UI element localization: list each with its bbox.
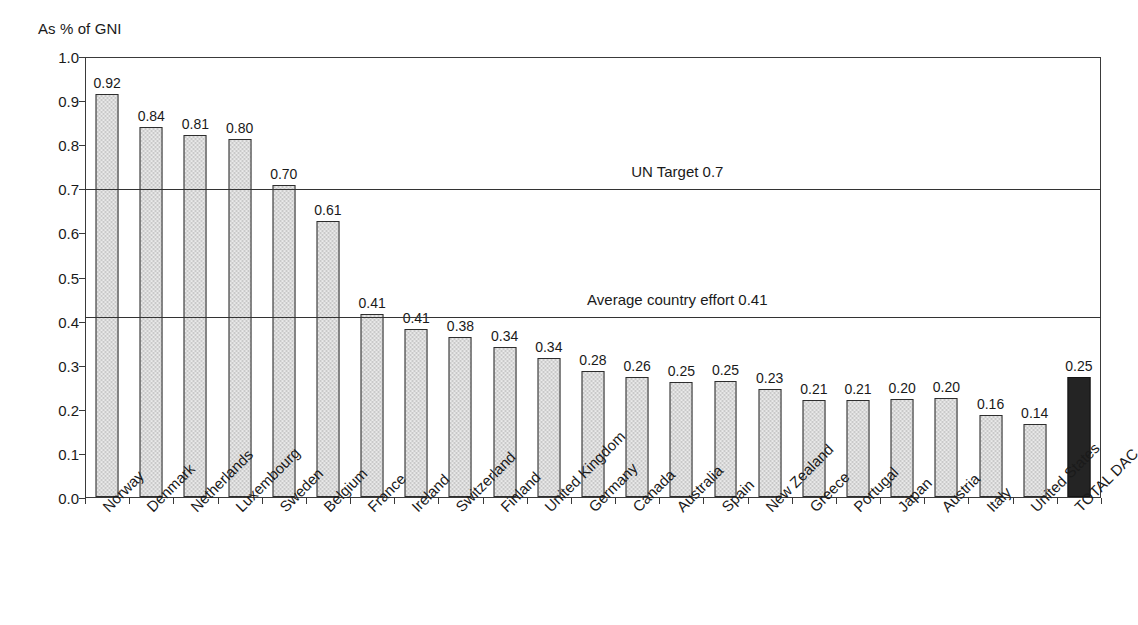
reference-line-label: Average country effort 0.41 <box>587 291 767 308</box>
bar-slot: 0.61 <box>306 57 350 497</box>
bar[interactable] <box>96 94 119 498</box>
bar-value-label: 0.21 <box>844 381 871 397</box>
oda-gni-bar-chart: As % of GNI 0.00.10.20.30.40.50.60.70.80… <box>0 0 1138 625</box>
bar-value-label: 0.92 <box>93 75 120 91</box>
bar-slot: 0.34 <box>483 57 527 497</box>
y-axis-tick-label: 0.1 <box>35 445 79 462</box>
bar-value-label: 0.25 <box>712 362 739 378</box>
bar[interactable] <box>758 389 781 497</box>
bar-value-label: 0.23 <box>756 370 783 386</box>
bar-value-label: 0.38 <box>447 318 474 334</box>
y-axis-tick <box>79 101 85 102</box>
y-axis-tick-label: 0.9 <box>35 93 79 110</box>
bar[interactable] <box>537 358 560 497</box>
bar-slot: 0.20 <box>880 57 924 497</box>
y-axis-tick-label: 0.0 <box>35 490 79 507</box>
y-axis-tick-label: 0.6 <box>35 225 79 242</box>
bar-slot: 0.41 <box>394 57 438 497</box>
bar-value-label: 0.25 <box>1065 358 1092 374</box>
y-axis-tick <box>79 57 85 58</box>
bar-value-label: 0.14 <box>1021 405 1048 421</box>
bar[interactable] <box>935 398 958 497</box>
bar-slot: 0.25 <box>1057 57 1101 497</box>
bar-slot: 0.70 <box>262 57 306 497</box>
bar[interactable] <box>449 337 472 497</box>
bar-value-label: 0.80 <box>226 120 253 136</box>
bar[interactable] <box>316 221 339 497</box>
bar-slot: 0.41 <box>350 57 394 497</box>
y-axis-tick <box>79 322 85 323</box>
reference-line <box>85 317 1101 318</box>
bar-value-label: 0.25 <box>668 363 695 379</box>
bar-slot: 0.16 <box>968 57 1012 497</box>
bar-slot: 0.84 <box>129 57 173 497</box>
y-axis-tick-label: 0.4 <box>35 313 79 330</box>
y-axis-tick-label: 0.7 <box>35 181 79 198</box>
bar-slot: 0.28 <box>571 57 615 497</box>
bar-value-label: 0.20 <box>933 379 960 395</box>
y-axis-tick-label: 0.5 <box>35 269 79 286</box>
bar-slot: 0.25 <box>659 57 703 497</box>
bar-slot: 0.14 <box>1013 57 1057 497</box>
plot-area: 0.920.840.810.800.700.610.410.410.380.34… <box>85 57 1101 498</box>
bar-slot: 0.20 <box>924 57 968 497</box>
y-axis-tick <box>79 366 85 367</box>
y-axis-tick-label: 1.0 <box>35 49 79 66</box>
bar-value-label: 0.34 <box>491 328 518 344</box>
bar-slot: 0.34 <box>527 57 571 497</box>
y-axis-tick <box>79 278 85 279</box>
y-axis-tick-label: 0.2 <box>35 401 79 418</box>
bar-value-label: 0.26 <box>624 358 651 374</box>
bar-value-label: 0.34 <box>535 339 562 355</box>
bar-slot: 0.21 <box>792 57 836 497</box>
x-axis-category-labels: NorwayDenmarkNetherlandsLuxembourgSweden… <box>85 499 1101 619</box>
y-axis-tick-label: 0.8 <box>35 137 79 154</box>
y-axis-tick <box>79 145 85 146</box>
bar[interactable] <box>405 329 428 497</box>
x-axis-tick <box>1101 498 1102 504</box>
bar-slot: 0.25 <box>703 57 747 497</box>
bar-value-label: 0.81 <box>182 116 209 132</box>
bar-value-label: 0.16 <box>977 396 1004 412</box>
y-axis-tick-labels: 0.00.10.20.30.40.50.60.70.80.91.0 <box>31 57 79 498</box>
bar-slot: 0.21 <box>836 57 880 497</box>
bar-value-label: 0.41 <box>403 310 430 326</box>
bar-value-label: 0.70 <box>270 166 297 182</box>
reference-line-label: UN Target 0.7 <box>631 163 723 180</box>
y-axis-tick <box>79 189 85 190</box>
bar-slot: 0.26 <box>615 57 659 497</box>
bar[interactable] <box>140 127 163 497</box>
bar-slot: 0.80 <box>218 57 262 497</box>
y-axis-tick <box>79 233 85 234</box>
bars: 0.920.840.810.800.700.610.410.410.380.34… <box>85 57 1101 498</box>
bar[interactable] <box>979 415 1002 497</box>
bar-value-label: 0.61 <box>314 202 341 218</box>
y-axis-tick <box>79 410 85 411</box>
bar-slot: 0.92 <box>85 57 129 497</box>
y-axis-tick-label: 0.3 <box>35 357 79 374</box>
bar-value-label: 0.84 <box>138 108 165 124</box>
bar-slot: 0.81 <box>173 57 217 497</box>
y-axis-tick <box>79 454 85 455</box>
bar-slot: 0.23 <box>748 57 792 497</box>
bar-value-label: 0.28 <box>579 352 606 368</box>
bar-slot: 0.38 <box>438 57 482 497</box>
bar-value-label: 0.21 <box>800 381 827 397</box>
reference-line <box>85 189 1101 190</box>
bar-value-label: 0.41 <box>358 295 385 311</box>
y-axis-unit-label: As % of GNI <box>38 20 122 37</box>
bar-value-label: 0.20 <box>889 380 916 396</box>
